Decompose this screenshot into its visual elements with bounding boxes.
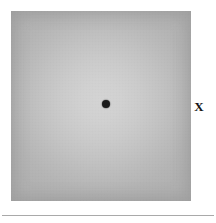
fixation-dot-marker [102,100,110,108]
bottom-horizontal-rule [2,215,214,216]
x-marker-label: X [192,99,206,115]
gray-stimulus-patch [11,11,191,201]
patch-grain-texture [11,11,191,201]
figure-root: X [0,0,216,223]
patch-edge-shading [11,11,191,201]
